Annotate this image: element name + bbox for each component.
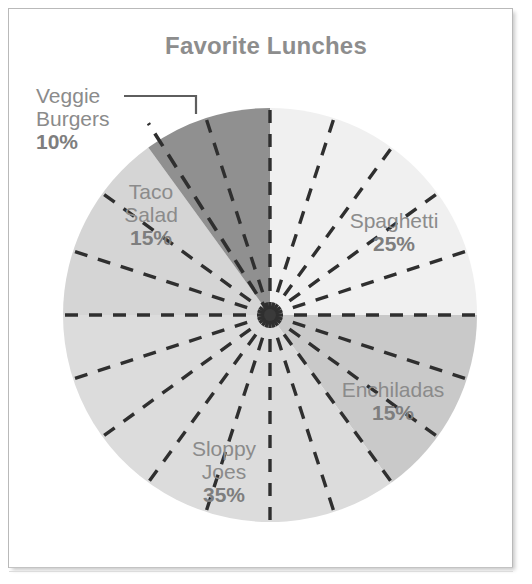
pie-label-veggie-burgers-line2: Burgers — [36, 107, 110, 130]
pie-label-sloppy-joes-percent: 35% — [182, 483, 266, 506]
pie-label-sloppy-joes-line2: Joes — [182, 460, 266, 483]
pie-label-spaghetti: Spaghetti 25% — [342, 209, 446, 255]
pie-label-taco-salad-percent: 15% — [108, 226, 194, 249]
pie-center-hub — [264, 309, 276, 321]
pie-label-veggie-burgers-percent: 10% — [36, 130, 110, 153]
pie-label-taco-salad-line1: Taco — [108, 180, 194, 203]
pie-label-taco-salad-line2: Salad — [108, 203, 194, 226]
pie-label-spaghetti-percent: 25% — [342, 232, 446, 255]
pie-label-veggie-burgers: Veggie Burgers 10% — [36, 84, 110, 153]
pie-label-enchiladas-percent: 15% — [330, 401, 456, 424]
leader-line-veggie-burgers — [124, 96, 196, 114]
pie-label-sloppy-joes: Sloppy Joes 35% — [182, 437, 266, 506]
pie-label-spaghetti-line1: Spaghetti — [342, 209, 446, 232]
pie-label-enchiladas: Enchiladas 15% — [330, 378, 456, 424]
pie-label-enchiladas-line1: Enchiladas — [330, 378, 456, 401]
pie-label-sloppy-joes-line1: Sloppy — [182, 437, 266, 460]
pie-label-taco-salad: Taco Salad 15% — [108, 180, 194, 249]
pie-label-veggie-burgers-line1: Veggie — [36, 84, 110, 107]
